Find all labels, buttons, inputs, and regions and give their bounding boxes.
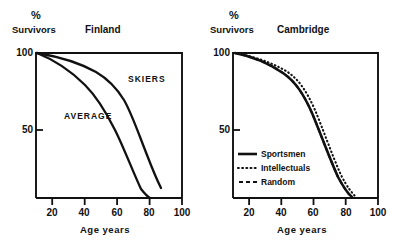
x-tick-label-40: 40	[269, 207, 293, 218]
x-tick-label-80: 80	[137, 207, 161, 218]
survival-curves-figure: % Survivors Finland 100 50 SKIERS AVERAG…	[0, 0, 402, 247]
x-tick-label-20: 20	[237, 207, 261, 218]
plot-frame	[36, 53, 182, 198]
x-tick-label-100: 100	[366, 207, 390, 218]
plot-frame	[233, 53, 378, 198]
series-line-random	[235, 53, 352, 197]
legend-label-sportsmen: Sportsmen	[261, 149, 305, 159]
x-tick-label-100: 100	[170, 207, 194, 218]
series-line-sportsmen	[235, 53, 352, 197]
chart-panel-finland: % Survivors Finland 100 50 SKIERS AVERAG…	[0, 0, 201, 247]
x-tick-label-20: 20	[40, 207, 64, 218]
x-tick-label-40: 40	[72, 207, 96, 218]
series-line-skiers	[37, 53, 161, 188]
x-tick-label-60: 60	[105, 207, 129, 218]
x-tick-label-80: 80	[334, 207, 358, 218]
legend-label-random: Random	[261, 177, 295, 187]
chart-panel-cambridge: % Survivors Cambridge 100 50	[201, 0, 402, 247]
series-line-average	[37, 53, 150, 198]
legend-label-intellectuals: Intellectuals	[261, 163, 310, 173]
x-axis-title: Age years	[277, 224, 327, 235]
x-axis-title: Age years	[80, 224, 130, 235]
x-tick-label-60: 60	[301, 207, 325, 218]
